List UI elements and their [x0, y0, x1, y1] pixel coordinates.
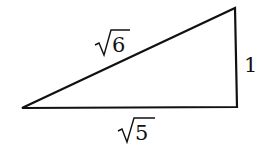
right-triangle — [22, 8, 237, 108]
vertical-leg-label: 1 — [244, 53, 257, 77]
triangle-diagram: 6 1 5 — [0, 0, 271, 155]
hypotenuse-value: 6 — [112, 33, 125, 57]
horizontal-leg-value: 5 — [135, 121, 148, 145]
horizontal-leg-label: 5 — [118, 118, 155, 145]
hypotenuse-label: 6 — [95, 30, 130, 57]
